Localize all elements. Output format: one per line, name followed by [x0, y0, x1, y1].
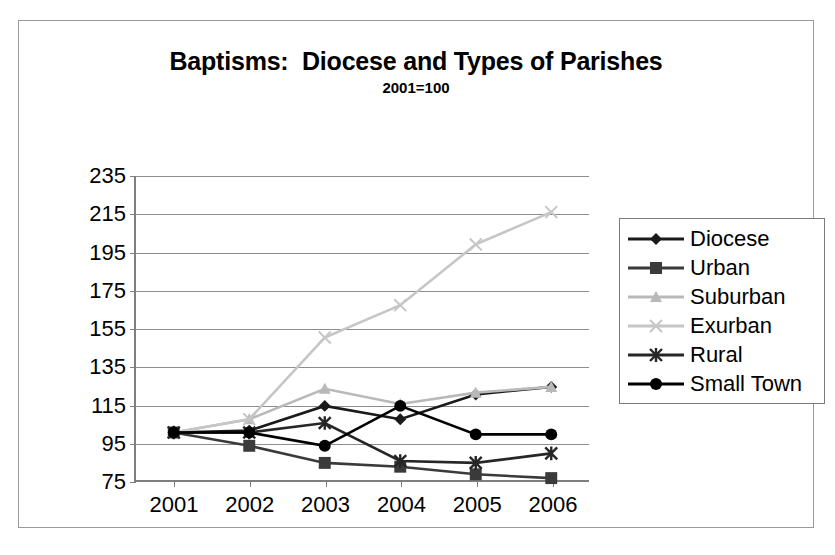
plot-area: 7595115135155175195215235 20012002200320… [134, 176, 589, 482]
x-tick [326, 480, 327, 487]
legend-label: Exurban [690, 313, 772, 339]
x-tick [174, 480, 175, 487]
legend-label: Urban [690, 255, 750, 281]
diamond-marker-icon [626, 229, 686, 249]
y-axis-label: 215 [56, 201, 126, 227]
legend-label: Suburban [690, 284, 785, 310]
y-tick [130, 482, 136, 483]
y-axis-label: 195 [56, 240, 126, 266]
x-axis-label: 2003 [301, 492, 350, 518]
plot-wrapper: 7595115135155175195215235 20012002200320… [119, 156, 589, 496]
legend-item-suburban[interactable]: Suburban [620, 282, 824, 311]
chart-legend: DioceseUrbanSuburbanExurbanRuralSmall To… [619, 218, 825, 404]
x-tick [401, 480, 402, 487]
chart-screenshot: Baptisms: Diocese and Types of Parishes … [0, 0, 835, 555]
x-axis-label: 2006 [529, 492, 578, 518]
x-tick [477, 480, 478, 487]
legend-item-rural[interactable]: Rural [620, 340, 824, 369]
series-suburban [168, 381, 557, 438]
square-marker-icon [626, 258, 686, 278]
asterisk-marker-icon [626, 345, 686, 365]
x-tick [250, 480, 251, 487]
y-axis-label: 95 [56, 431, 126, 457]
x-axis-label: 2004 [377, 492, 426, 518]
legend-item-exurban[interactable]: Exurban [620, 311, 824, 340]
chart-title: Baptisms: Diocese and Types of Parishes [19, 47, 813, 76]
series-exurban [168, 206, 557, 438]
legend-label: Small Town [690, 371, 802, 397]
series-layer [136, 176, 589, 480]
x-axis-label: 2002 [225, 492, 274, 518]
x-axis-label: 2001 [149, 492, 198, 518]
y-axis-label: 75 [56, 469, 126, 495]
circle-marker-icon [626, 374, 686, 394]
legend-label: Diocese [690, 226, 769, 252]
legend-item-urban[interactable]: Urban [620, 253, 824, 282]
y-axis-label: 175 [56, 278, 126, 304]
y-axis-label: 135 [56, 354, 126, 380]
series-small-town [168, 400, 557, 452]
triangle-marker-icon [626, 287, 686, 307]
figure-frame: Baptisms: Diocese and Types of Parishes … [18, 20, 814, 528]
y-axis-label: 155 [56, 316, 126, 342]
legend-label: Rural [690, 342, 743, 368]
legend-item-diocese[interactable]: Diocese [620, 224, 824, 253]
chart-subtitle: 2001=100 [19, 79, 813, 96]
y-axis-label: 235 [56, 163, 126, 189]
y-axis-label: 115 [56, 393, 126, 419]
legend-item-small-town[interactable]: Small Town [620, 369, 824, 398]
x-axis-label: 2005 [453, 492, 502, 518]
x-marker-icon [626, 316, 686, 336]
